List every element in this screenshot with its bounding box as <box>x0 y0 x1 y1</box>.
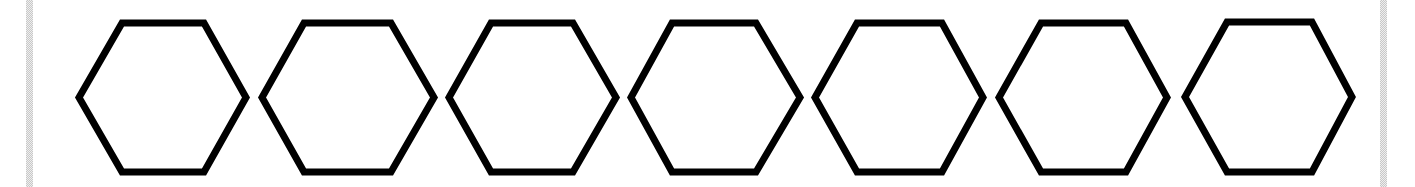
hexagon-4 <box>631 23 800 172</box>
hexagon-5 <box>815 23 983 172</box>
hexagon-1 <box>79 23 246 172</box>
hexagon-2 <box>262 23 434 172</box>
hexagon-6 <box>999 23 1167 172</box>
hexagon-row <box>0 0 1415 187</box>
hexagon-3 <box>449 23 616 172</box>
hexagon-7 <box>1185 22 1352 172</box>
